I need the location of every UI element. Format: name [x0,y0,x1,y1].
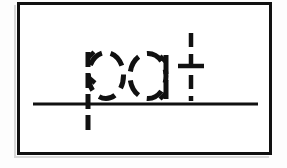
worksheet-frame [17,2,272,155]
worksheet-canvas: pat p a t [0,0,287,168]
